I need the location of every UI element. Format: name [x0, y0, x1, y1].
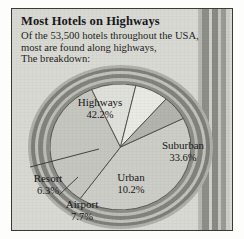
slice-label-urban: Urban 10.2% — [117, 172, 145, 195]
slice-label-highways: Highways 42.2% — [78, 97, 123, 120]
page-title: Most Hotels on Highways — [21, 14, 193, 28]
slice-percent: 42.2% — [78, 109, 123, 121]
chart-frame: Most Hotels on Highways Of the 53,500 ho… — [11, 8, 233, 231]
subtitle-line-2: most are found along highways, — [21, 42, 193, 54]
subtitle: Of the 53,500 hotels throughout the USA,… — [21, 30, 193, 65]
slice-percent: 33.6% — [162, 152, 204, 164]
slice-name: Airport — [66, 199, 98, 211]
slice-percent: 10.2% — [117, 184, 145, 196]
slice-percent: 7.7% — [66, 211, 98, 223]
slice-name: Urban — [117, 172, 145, 184]
highway-band — [226, 8, 230, 231]
slice-name: Highways — [78, 97, 123, 109]
slice-label-suburban: Suburban 33.6% — [162, 140, 204, 163]
slice-label-airport: Airport 7.7% — [66, 199, 98, 222]
subtitle-line-1: Of the 53,500 hotels throughout the USA, — [21, 30, 193, 42]
slice-label-resort: Resort 6.3% — [34, 173, 63, 196]
slice-name: Suburban — [162, 140, 204, 152]
header: Most Hotels on Highways Of the 53,500 ho… — [21, 14, 193, 65]
infographic-page: Most Hotels on Highways Of the 53,500 ho… — [0, 0, 244, 239]
subtitle-line-3: The breakdown: — [21, 53, 193, 65]
slice-percent: 6.3% — [34, 185, 63, 197]
slice-name: Resort — [34, 173, 63, 185]
